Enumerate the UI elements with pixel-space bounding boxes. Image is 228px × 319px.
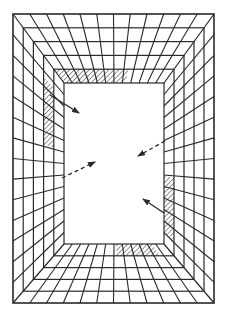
corner-diagonal-0 xyxy=(13,14,64,83)
top-radial-line xyxy=(139,14,164,83)
bottom-radial-line xyxy=(80,244,97,303)
left-radial-line xyxy=(13,210,64,242)
right-radial-line xyxy=(164,233,214,283)
right-radial-line xyxy=(164,55,214,106)
left-radial-line xyxy=(13,175,64,179)
arrow-bottom-right xyxy=(143,199,164,213)
top-radial-line xyxy=(156,14,198,83)
grid-lines xyxy=(13,14,214,303)
top-radial-line xyxy=(147,14,180,83)
right-radial-line xyxy=(164,97,214,129)
inner-opening xyxy=(64,83,164,244)
left-radial-line xyxy=(13,117,64,140)
right-radial-line xyxy=(164,117,214,140)
right-wall-hatch xyxy=(164,176,174,240)
right-radial-line xyxy=(164,159,214,164)
hatched-regions xyxy=(44,69,174,256)
left-radial-line xyxy=(13,159,64,164)
corner-diagonal-3 xyxy=(164,244,214,303)
right-radial-line xyxy=(164,76,214,118)
top-radial-line xyxy=(131,14,147,83)
top-radial-line xyxy=(114,14,115,83)
left-radial-line xyxy=(13,138,64,152)
left-radial-line xyxy=(13,97,64,129)
ring-3 xyxy=(44,55,184,267)
ring-4 xyxy=(54,69,174,256)
left-radial-line xyxy=(13,76,64,118)
corner-diagonal-2 xyxy=(13,244,64,303)
right-radial-line xyxy=(164,35,214,95)
tunnel-diagram-canvas xyxy=(0,0,228,319)
corner-diagonal-1 xyxy=(164,14,214,83)
arrow-right-dashed xyxy=(138,141,165,156)
left-radial-line xyxy=(13,35,64,95)
bottom-radial-line xyxy=(114,244,115,303)
left-radial-line xyxy=(13,233,64,283)
left-radial-line xyxy=(13,187,64,200)
tunnel-diagram xyxy=(0,0,228,319)
arrow-left-dashed xyxy=(62,162,95,178)
left-radial-line xyxy=(13,198,64,220)
bottom-radial-line xyxy=(97,244,106,303)
bottom-radial-line xyxy=(147,244,180,303)
arrows xyxy=(50,95,165,213)
right-radial-line xyxy=(164,138,214,152)
bottom-radial-line xyxy=(156,244,198,303)
